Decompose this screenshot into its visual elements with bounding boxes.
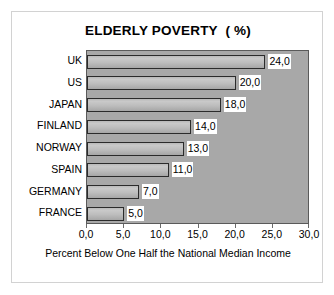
bar-row: 11,0	[87, 160, 308, 182]
category-label-uk: UK	[12, 50, 86, 72]
category-label-finland: FINLAND	[12, 115, 86, 137]
bar-value-spain: 11,0	[172, 162, 194, 177]
category-label-france: FRANCE	[12, 202, 86, 224]
bar-row: 18,0	[87, 95, 308, 117]
category-label-us: US	[12, 72, 86, 94]
category-label-norway: NORWAY	[12, 137, 86, 159]
x-tick-label: 25,0	[262, 228, 282, 240]
bar-finland[interactable]	[87, 120, 191, 134]
bar-us[interactable]	[87, 76, 236, 90]
bar-value-uk: 24,0	[268, 54, 290, 69]
category-label-japan: JAPAN	[12, 94, 86, 116]
bar-value-norway: 13,0	[187, 141, 209, 156]
bar-value-france: 5,0	[127, 206, 144, 221]
bar-japan[interactable]	[87, 98, 221, 112]
chart-title: ELDERLY POVERTY ( %)	[12, 23, 324, 38]
category-axis: UK US JAPAN FINLAND NORWAY SPAIN GERMANY…	[12, 50, 86, 224]
plot-area: 24,0 20,0 18,0 14,0 13,0 11,0 7,0 5,0	[86, 50, 309, 224]
bar-row: 13,0	[87, 138, 308, 160]
x-tick-label: 20,0	[224, 228, 244, 240]
bar-row: 20,0	[87, 73, 308, 95]
bar-value-us: 20,0	[239, 75, 261, 90]
x-tick-label: 15,0	[187, 228, 207, 240]
bar-row: 24,0	[87, 51, 308, 73]
x-tick-label: 0,0	[79, 228, 94, 240]
bar-value-germany: 7,0	[142, 184, 159, 199]
bar-spain[interactable]	[87, 163, 169, 177]
x-tick-label: 5,0	[116, 228, 131, 240]
bar-value-finland: 14,0	[194, 119, 216, 134]
x-axis-title: Percent Below One Half the National Medi…	[12, 247, 324, 259]
bar-row: 14,0	[87, 116, 308, 138]
x-tick-label: 10,0	[150, 228, 170, 240]
bar-norway[interactable]	[87, 142, 184, 156]
bar-value-japan: 18,0	[224, 97, 246, 112]
category-label-germany: GERMANY	[12, 181, 86, 203]
chart-frame: ELDERLY POVERTY ( %) UK US JAPAN FINLAND…	[11, 11, 323, 283]
x-tick-label: 30,0	[299, 228, 319, 240]
x-axis-tick-labels: 0,0 5,0 10,0 15,0 20,0 25,0 30,0	[86, 228, 309, 242]
category-label-spain: SPAIN	[12, 159, 86, 181]
bar-row: 5,0	[87, 203, 308, 225]
bar-row: 7,0	[87, 182, 308, 204]
bar-france[interactable]	[87, 207, 124, 221]
bar-uk[interactable]	[87, 55, 265, 69]
bar-germany[interactable]	[87, 185, 139, 199]
